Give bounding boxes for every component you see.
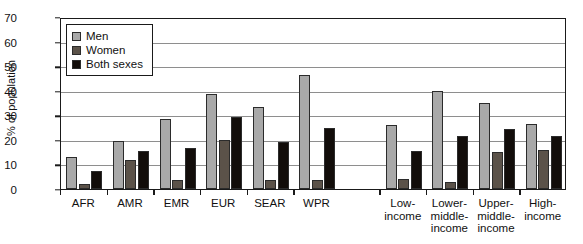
bar-group-upper-middle-income [479,18,515,189]
legend-label-women: Women [86,44,125,56]
x-tick-boundary-2 [153,190,154,195]
bar-men-3 [206,94,217,189]
bar-group-emr [160,18,196,189]
bar-men-4 [253,107,264,189]
bar-both-0 [91,171,102,189]
legend: Men Women Both sexes [66,24,153,76]
bar-men-9 [526,124,537,189]
x-label-line: High- [505,197,581,210]
x-tick-boundary-7 [426,190,427,195]
bar-men-5 [299,75,310,189]
x-tick-boundary-1 [107,190,108,195]
bar-men-6 [386,125,397,189]
legend-item-both-sexes: Both sexes [72,57,143,71]
bar-group-low-income [386,18,422,189]
bar-women-2 [172,180,183,189]
x-tick-boundary-6 [379,190,380,195]
bar-both-9 [551,136,562,189]
bar-both-4 [278,142,289,189]
bar-both-2 [185,148,196,189]
legend-swatch-women-icon [72,46,81,55]
legend-swatch-men-icon [72,32,81,41]
bar-men-8 [479,103,490,189]
bar-men-2 [160,119,171,189]
legend-label-men: Men [86,30,108,42]
legend-item-men: Men [72,29,143,43]
y-tick-label-50: 50 [0,61,17,73]
bar-group-lower-middle-income [432,18,468,189]
bar-both-5 [324,128,335,189]
y-tick-label-20: 20 [0,135,17,147]
x-axis-label-wpr: WPR [278,197,354,210]
bar-both-3 [231,117,242,189]
bar-both-1 [138,151,149,189]
bar-both-6 [411,151,422,189]
bar-chart: % of population 010203040506070 AFRAMREM… [0,0,583,244]
x-label-line: income [458,222,534,235]
y-tick-label-10: 10 [0,159,17,171]
bar-group-high-income [526,18,562,189]
legend-swatch-both-sexes-icon [72,60,81,69]
y-tick-label-0: 0 [0,184,17,196]
bar-women-0 [79,184,90,189]
legend-item-women: Women [72,43,143,57]
x-axis-label-high-income: High-income [505,197,581,222]
x-tick-boundary-4 [247,190,248,195]
bar-men-0 [66,157,77,189]
y-tick-label-60: 60 [0,37,17,49]
bar-women-8 [492,152,503,189]
y-tick-label-40: 40 [0,86,17,98]
bar-women-9 [538,150,549,189]
y-tick-label-30: 30 [0,110,17,122]
bar-group-sear [253,18,289,189]
bar-women-7 [445,182,456,189]
bar-men-1 [113,141,124,189]
bar-both-8 [504,129,515,189]
bar-women-5 [312,180,323,189]
x-tick-boundary-3 [200,190,201,195]
bar-both-7 [457,136,468,189]
x-tick-boundary-8 [473,190,474,195]
bar-women-6 [398,179,409,189]
x-tick-boundary-0 [60,190,61,195]
x-label-line: WPR [278,197,354,210]
x-tick-boundary-9 [519,190,520,195]
bar-men-7 [432,91,443,189]
bar-group-wpr [299,18,335,189]
bar-women-3 [219,140,230,189]
x-tick-boundary-5 [293,190,294,195]
bar-women-4 [265,180,276,189]
legend-label-both-sexes: Both sexes [86,58,143,70]
bar-group-eur [206,18,242,189]
x-label-line: income [505,210,581,223]
y-tick-label-70: 70 [0,12,17,24]
bar-women-1 [125,160,136,189]
